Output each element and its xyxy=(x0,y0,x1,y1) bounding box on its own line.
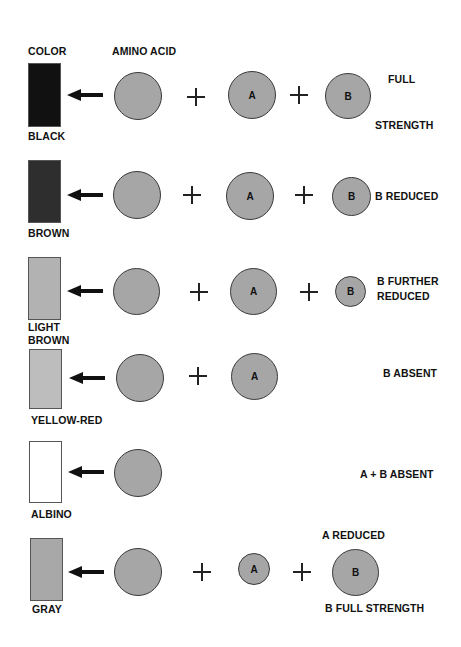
note-line1: FULL xyxy=(388,73,415,85)
color-label: BLACK xyxy=(28,130,65,142)
color-header: COLOR xyxy=(28,45,66,57)
gene-b-circle: B xyxy=(332,549,379,596)
gene-b-circle: B xyxy=(335,276,366,307)
plus-icon xyxy=(187,88,205,106)
arrow-icon xyxy=(69,376,105,380)
plus-icon xyxy=(295,186,313,204)
note-line2: STRENGTH xyxy=(375,119,434,131)
gene-b-circle: B xyxy=(325,73,371,119)
color-label-line2: BROWN xyxy=(28,334,69,346)
color-label: BROWN xyxy=(28,227,69,239)
amino-acid-circle xyxy=(113,171,161,219)
amino-acid-circle xyxy=(114,72,162,120)
plus-icon xyxy=(193,563,211,581)
plus-icon xyxy=(293,563,311,581)
color-swatch-black xyxy=(28,63,61,127)
arrow-icon xyxy=(67,193,103,197)
amino-acid-circle xyxy=(114,548,162,596)
amino-acid-circle xyxy=(116,354,164,402)
color-swatch-albino xyxy=(29,441,62,503)
color-swatch-gray xyxy=(30,538,63,601)
color-label: ALBINO xyxy=(31,508,72,520)
amino-acid-circle xyxy=(114,449,162,497)
gene-a-circle: A xyxy=(226,172,274,220)
gene-a-circle: A xyxy=(238,553,270,585)
arrow-icon xyxy=(68,570,104,574)
amino-acid-circle xyxy=(113,268,160,315)
color-label: YELLOW-RED xyxy=(31,414,102,426)
plus-icon xyxy=(300,283,318,301)
arrow-icon xyxy=(68,470,104,474)
note-line1: A REDUCED xyxy=(322,529,385,541)
note-line1: B FURTHER xyxy=(377,275,439,287)
note-line2: REDUCED xyxy=(377,290,430,302)
plus-icon xyxy=(190,283,208,301)
note-line2: B FULL STRENGTH xyxy=(325,602,424,614)
amino-acid-header: AMINO ACID xyxy=(112,45,176,57)
gene-a-circle: A xyxy=(231,353,278,400)
color-label: GRAY xyxy=(32,603,62,615)
note-line1: B ABSENT xyxy=(383,367,437,379)
plus-icon xyxy=(183,186,201,204)
gene-b-circle: B xyxy=(332,177,371,216)
gene-a-circle: A xyxy=(228,71,276,119)
arrow-icon xyxy=(67,93,103,97)
note-line1: B REDUCED xyxy=(375,190,438,202)
color-label-line1: LIGHT xyxy=(28,321,60,333)
gene-a-circle: A xyxy=(230,268,277,315)
color-swatch-light-brown xyxy=(28,257,61,320)
color-swatch-yellow-red xyxy=(29,349,62,409)
plus-icon xyxy=(290,86,308,104)
arrow-icon xyxy=(67,289,103,293)
color-swatch-brown xyxy=(28,160,61,223)
note-line1: A + B ABSENT xyxy=(360,468,434,480)
plus-icon xyxy=(189,367,207,385)
